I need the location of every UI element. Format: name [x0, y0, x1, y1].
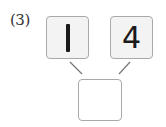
- answer-box[interactable]: [78, 79, 122, 121]
- connector-left: [70, 62, 82, 74]
- connector-right: [119, 62, 130, 74]
